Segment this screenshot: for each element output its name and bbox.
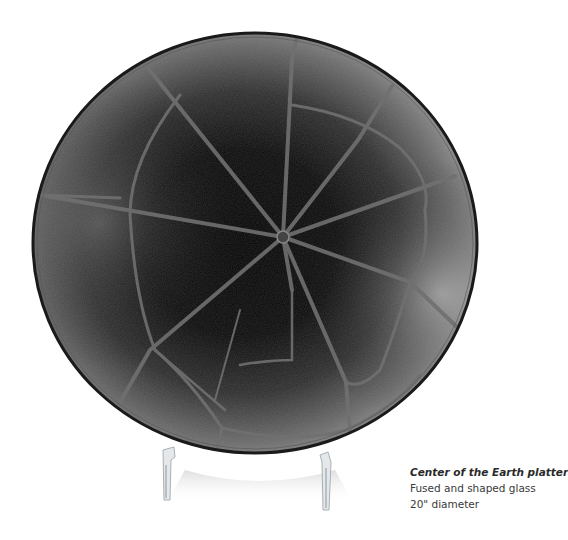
artwork-title: Center of the Earth platter <box>410 464 568 480</box>
artwork-caption: Center of the Earth platter Fused and sh… <box>410 464 568 512</box>
artwork-material: Fused and shaped glass <box>410 480 568 496</box>
artwork-size: 20" diameter <box>410 496 568 512</box>
